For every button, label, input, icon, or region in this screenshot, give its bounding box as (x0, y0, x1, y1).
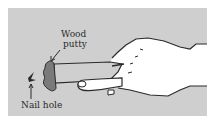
finger (108, 90, 114, 95)
wood-putty-label-line2: putty (63, 40, 87, 49)
thumbnail (78, 81, 86, 87)
wood-putty-label-line1: Wood (61, 30, 86, 39)
wood-putty-blob (43, 61, 56, 91)
putty-leader-arrow (52, 50, 60, 60)
nail-hole-mark (28, 72, 36, 82)
nail-hole-arrow (29, 84, 33, 99)
nail-hole-label: Nail hole (21, 101, 62, 110)
